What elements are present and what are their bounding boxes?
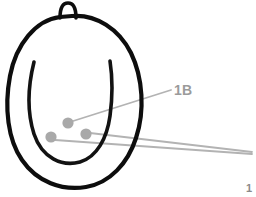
- leader-line-1b: [70, 90, 171, 122]
- diagram-canvas: 1B 1: [0, 0, 256, 197]
- marker-group: [45, 117, 91, 142]
- leader-line-upper-right: [90, 133, 252, 152]
- annotation-marker-c[interactable]: [80, 128, 91, 139]
- annotation-marker-b[interactable]: [45, 131, 56, 142]
- annotation-label-1b: 1B: [174, 82, 192, 98]
- diagram-svg: 1B 1: [0, 0, 256, 197]
- leader-line-group: [55, 90, 252, 154]
- annotation-marker-1b[interactable]: [62, 117, 73, 128]
- corner-mark-label: 1: [246, 182, 252, 194]
- leader-line-lower-right: [55, 140, 252, 154]
